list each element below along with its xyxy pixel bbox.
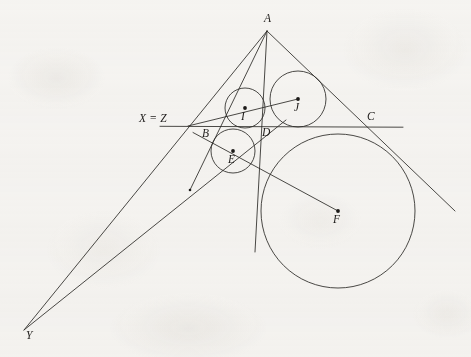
- line-AC-extended: [267, 31, 455, 211]
- circles: [211, 71, 415, 288]
- label-point-X-equals-Z: X = Z: [139, 113, 167, 125]
- label-point-Y: Y: [26, 330, 33, 342]
- line-BF: [193, 133, 338, 212]
- geometry-figure: [0, 0, 471, 357]
- line-YB-extended: [24, 120, 286, 330]
- construction-lines: [24, 31, 455, 330]
- label-point-F: F: [333, 214, 340, 226]
- label-point-J: J: [294, 102, 299, 114]
- label-point-A: A: [264, 13, 271, 25]
- label-point-I: I: [241, 111, 245, 123]
- diagram-page: A X = Z B D C I J E F Y: [0, 0, 471, 357]
- label-point-C: C: [367, 111, 375, 123]
- dot-tangent-left: [189, 189, 192, 192]
- label-point-B: B: [202, 128, 209, 140]
- label-point-E: E: [228, 154, 235, 166]
- line-AY: [24, 31, 267, 330]
- label-point-D: D: [262, 127, 271, 139]
